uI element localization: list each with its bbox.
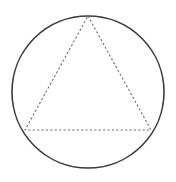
figure-background [0,0,176,182]
geometry-figure-canvas [0,0,176,182]
geometry-figure-svg [0,0,176,182]
